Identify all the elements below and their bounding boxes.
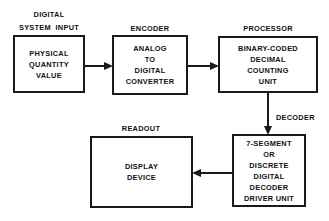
block-body-digital-system-input: PHYSICAL QUANTITY VALUE bbox=[17, 36, 81, 92]
caption-digital-system-input: DIGITAL SYSTEM INPUT bbox=[8, 8, 91, 34]
caption-encoder: ENCODER bbox=[113, 22, 187, 35]
block-body-readout: DISPLAY DEVICE bbox=[95, 137, 188, 207]
caption-processor: PROCESSOR bbox=[231, 22, 305, 35]
arrow-head-decoder-to-readout bbox=[192, 169, 201, 177]
arrow-head-input-to-encoder bbox=[104, 62, 113, 70]
block-body-decoder: 7-SEGMENT OR DISCRETE DIGITAL DECODER DR… bbox=[236, 135, 302, 206]
caption-readout: READOUT bbox=[104, 123, 178, 134]
arrow-head-processor-to-decoder bbox=[264, 126, 272, 135]
block-diagram: DIGITAL SYSTEM INPUT PHYSICAL QUANTITY V… bbox=[0, 0, 329, 221]
block-body-encoder: ANALOG TO DIGITAL CONVERTER bbox=[116, 36, 184, 94]
arrow-head-encoder-to-processor bbox=[210, 62, 219, 70]
caption-decoder: DECODER bbox=[276, 112, 322, 123]
block-body-processor: BINARY-CODED DECIMAL COUNTING UNIT bbox=[223, 37, 313, 92]
